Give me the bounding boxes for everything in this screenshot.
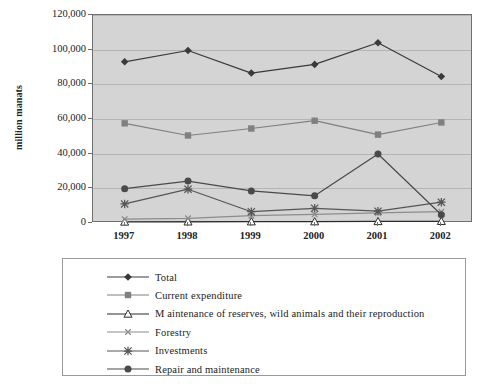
x-axis-tick-mark [250,222,251,226]
legend-item-label: M aintenance of reserves, wild animals a… [155,308,425,319]
legend-item[interactable]: Repair and maintenance [105,360,260,378]
x-axis-tick-mark [377,222,378,226]
legend-item[interactable]: Total [105,268,177,286]
legend-marker-circle-icon [105,362,151,376]
x-axis-tick-mark [187,222,188,226]
legend-item-label: Current expenditure [155,290,242,301]
chart-legend: TotalCurrent expenditureM aintenance of … [62,258,466,376]
y-axis-tick-label: 120,000 [26,9,86,19]
legend-marker-square-icon [105,288,151,302]
x-axis-tick-mark [124,222,125,226]
y-axis-tick-label: 100,000 [26,44,86,54]
x-axis-tick-label: 2001 [347,230,407,241]
y-axis-tick-mark [88,222,92,223]
series-square [121,118,444,139]
line-chart: million manats 020,00040,00060,00080,000… [0,0,487,250]
legend-item[interactable]: Current expenditure [105,286,242,304]
legend-marker-triangle-icon [105,307,151,321]
legend-marker-x-icon [105,325,151,339]
legend-item-label: Repair and maintenance [155,364,260,375]
legend-item-label: Investments [155,345,207,356]
x-axis-tick-label: 1999 [220,230,280,241]
legend-item-label: Total [155,272,177,283]
legend-item-label: Forestry [155,327,191,338]
y-axis-tick-label: 60,000 [26,113,86,123]
y-axis-tick-label: 0 [26,217,86,227]
x-axis-tick-label: 1998 [157,230,217,241]
y-axis-tick-label: 80,000 [26,78,86,88]
x-axis-tick-label: 2000 [284,230,344,241]
legend-marker-asterisk-icon [105,344,151,358]
y-axis-tick-label: 40,000 [26,148,86,158]
series-layer [93,15,473,223]
legend-item[interactable]: M aintenance of reserves, wild animals a… [105,305,425,323]
x-axis-tick-mark [314,222,315,226]
legend-marker-diamond-icon [105,270,151,284]
legend-item[interactable]: Forestry [105,323,191,341]
series-diamond [121,39,445,80]
x-axis-tick-label: 1997 [94,230,154,241]
series-asterisk [120,185,445,216]
plot-area [92,14,472,222]
series-x [122,209,444,222]
y-axis-title: million manats [10,62,26,172]
y-axis-tick-label: 20,000 [26,182,86,192]
legend-item[interactable]: Investments [105,342,207,360]
x-axis-tick-label: 2002 [410,230,470,241]
x-axis-tick-mark [440,222,441,226]
chart-page: million manats 020,00040,00060,00080,000… [0,0,487,384]
